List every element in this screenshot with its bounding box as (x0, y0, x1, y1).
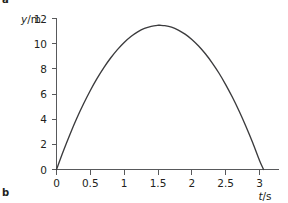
x-axis-ticks (57, 170, 260, 175)
x-axis-tick-labels: 0 0.5 1 1.5 2 2.5 3 (53, 177, 263, 189)
figure-panel-a: a 12 10 8 6 4 2 0 (0, 0, 288, 203)
line-chart: 12 10 8 6 4 2 0 0 0.5 1 1.5 2 2.5 3 (0, 0, 288, 203)
y-axis-tick-labels: 12 10 8 6 4 2 0 (34, 13, 48, 176)
x-tick-label: 1.5 (150, 177, 167, 189)
y-tick-label: 2 (40, 138, 47, 150)
y-axis-ticks (52, 19, 57, 170)
y-tick-label: 0 (40, 164, 47, 176)
x-axis-title: t/s (258, 190, 271, 202)
x-tick-label: 1 (121, 177, 128, 189)
x-tick-label: 0 (53, 177, 60, 189)
y-tick-label: 6 (40, 88, 47, 100)
panel-label-b: b (2, 188, 9, 198)
x-tick-label: 0.5 (82, 177, 99, 189)
y-axis-title: y/m (20, 13, 41, 25)
y-tick-label: 8 (40, 63, 47, 75)
data-series-line (57, 25, 264, 169)
x-tick-label: 2.5 (217, 177, 234, 189)
y-tick-label: 4 (40, 113, 47, 125)
y-tick-label: 10 (34, 38, 47, 50)
y-axis-title-unit: /m (27, 13, 41, 25)
x-axis-title-unit: /s (263, 190, 272, 202)
x-tick-label: 2 (188, 177, 195, 189)
x-tick-label: 3 (256, 177, 263, 189)
